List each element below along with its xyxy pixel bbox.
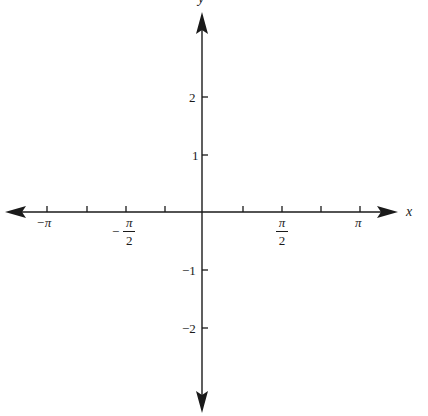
y-axis-label: y — [198, 0, 204, 6]
fraction-bar — [276, 231, 288, 232]
fraction-bar — [123, 231, 135, 232]
fraction-denominator: 2 — [123, 234, 135, 247]
y-tick-label-2: 2 — [189, 91, 196, 104]
x-axis-ticks — [47, 206, 360, 212]
x-tick-label-neg-pi: −π — [36, 216, 51, 229]
x-tick-label-neg-half-pi: − π 2 — [112, 216, 135, 247]
fraction-numerator: π — [123, 216, 135, 229]
y-tick-label-neg-2: −2 — [182, 322, 196, 335]
minus-sign: − — [112, 224, 119, 240]
axes-diagram — [0, 0, 428, 416]
x-axis-label: x — [406, 205, 412, 219]
fraction-denominator: 2 — [276, 234, 288, 247]
x-tick-label-pi: π — [355, 216, 362, 229]
x-tick-label-half-pi: π 2 — [276, 216, 288, 247]
y-tick-label-1: 1 — [192, 149, 199, 162]
y-tick-label-neg-1: −1 — [182, 264, 196, 277]
fraction-numerator: π — [276, 216, 288, 229]
